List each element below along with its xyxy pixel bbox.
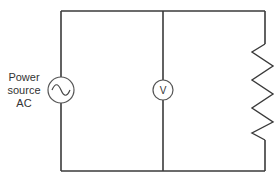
resistor-zigzag <box>252 44 273 140</box>
circuit-diagram: V Power source AC <box>0 0 278 176</box>
source-label-line-3: AC <box>0 97 48 110</box>
voltmeter: V <box>153 80 173 100</box>
source-label-line-1: Power <box>0 71 48 84</box>
voltmeter-symbol: V <box>160 85 167 96</box>
ac-power-source <box>48 77 74 103</box>
source-label-line-2: source <box>0 84 48 97</box>
